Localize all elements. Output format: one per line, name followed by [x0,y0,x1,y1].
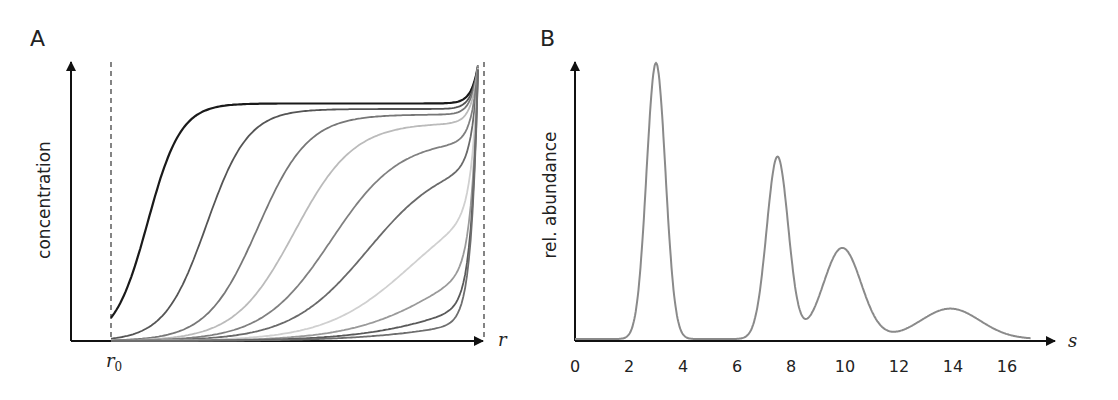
x-tick-label: 6 [732,357,742,376]
boundary-curve-t1 [111,66,478,318]
x-tick-label: 16 [997,357,1017,376]
panel-b-ylabel: rel. abundance [540,131,560,258]
x-tick-label: 8 [786,357,796,376]
boundary-curves [111,66,478,341]
x-tick-labels: 0246810121416 [570,357,1017,376]
boundary-curve-t2 [111,66,478,339]
figure: A concentration r r0 B rel. abundance 02… [0,0,1118,400]
panel-a: A concentration r r0 [30,26,508,374]
distribution-curve [575,63,1031,339]
x-tick-label: 4 [678,357,688,376]
x-tick-label: 14 [943,357,963,376]
panel-b-letter: B [540,26,555,51]
x-tick-label: 2 [624,357,634,376]
x-axis-a-label: r [498,329,508,350]
x-tick-label: 0 [570,357,580,376]
panel-b: B rel. abundance 0246810121416 s [540,26,1077,376]
x-tick-label: 10 [835,357,855,376]
figure-canvas: A concentration r r0 B rel. abundance 02… [0,0,1118,400]
x-axis-b-label: s [1068,330,1077,351]
r0-label: r0 [106,350,122,374]
boundary-curve-t3 [111,66,478,341]
panel-a-letter: A [30,26,45,51]
panel-a-ylabel: concentration [34,141,54,259]
x-tick-label: 12 [889,357,909,376]
